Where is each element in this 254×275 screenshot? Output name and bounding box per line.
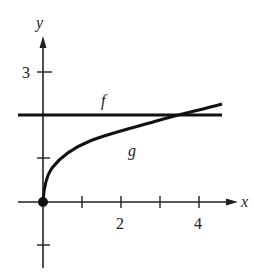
x-tick-label-2: 2 <box>116 215 124 232</box>
chart-svg: y x 3 2 4 f g <box>0 0 254 275</box>
g-label: g <box>128 142 136 160</box>
x-axis-arrow-icon <box>226 199 238 206</box>
y-ticks <box>37 72 52 245</box>
x-tick-label-4: 4 <box>194 215 202 232</box>
x-axis-label: x <box>240 193 248 210</box>
origin-point <box>38 197 48 207</box>
y-axis-arrow-icon <box>40 36 47 48</box>
f-label: f <box>101 92 108 110</box>
y-axis-label: y <box>34 14 44 32</box>
y-tick-label-3: 3 <box>22 64 30 81</box>
